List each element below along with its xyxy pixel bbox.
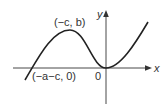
function-graph: y x 0 (−c, b) (−a−c, 0) — [0, 0, 165, 109]
origin-label: 0 — [95, 70, 101, 82]
maximum-point-label: (−c, b) — [54, 16, 85, 28]
x-axis-label: x — [153, 62, 160, 74]
x-axis-arrow-icon — [145, 65, 152, 71]
y-axis-arrow-icon — [103, 10, 109, 17]
y-axis-label: y — [96, 8, 104, 20]
x-intercept-label: (−a−c, 0) — [32, 70, 76, 82]
